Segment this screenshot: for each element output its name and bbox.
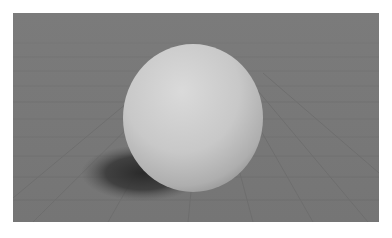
scene-canvas — [13, 13, 379, 222]
sphere — [123, 44, 263, 192]
rendered-scene — [13, 13, 379, 222]
